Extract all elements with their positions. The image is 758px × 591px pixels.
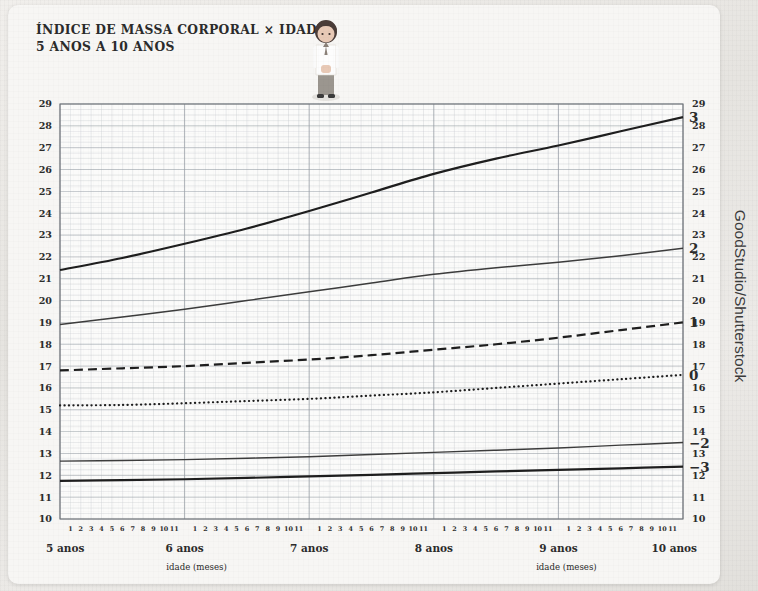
x-axis-month-label: 6 [618, 525, 623, 533]
x-axis-month-label: 11 [294, 525, 303, 533]
x-axis-month-label: 3 [89, 525, 94, 533]
y-axis-tick-label-right: 21 [692, 273, 705, 284]
x-axis-month-label: 8 [265, 525, 270, 533]
y-axis-tick-label-left: 27 [39, 142, 52, 153]
y-axis-tick-label-right: 18 [692, 339, 706, 350]
x-axis-month-label: 9 [276, 525, 281, 533]
x-axis-month-label: 1 [317, 525, 321, 533]
x-axis-month-label: 7 [504, 525, 508, 533]
x-axis-month-label: 9 [151, 525, 156, 533]
x-axis-month-label: 2 [577, 525, 581, 533]
x-axis-year-label: 9 anos [539, 542, 577, 554]
x-axis-month-label: 10 [284, 525, 293, 533]
x-axis-year-label: 5 anos [46, 542, 84, 554]
image-credit: GoodStudio/Shutterstock [721, 0, 758, 591]
y-axis-tick-label-left: 22 [39, 251, 52, 262]
chart-card: ÍNDICE DE MASSA CORPORAL × IDADE5 ANOS A… [8, 5, 720, 584]
y-axis-tick-label-right: 11 [692, 492, 705, 503]
x-axis-month-label: 3 [463, 525, 468, 533]
curve-label-0: 0 [689, 367, 698, 383]
x-axis-month-label: 5 [110, 525, 114, 533]
x-axis-month-label: 6 [369, 525, 374, 533]
curve-label--2: −2 [689, 435, 710, 451]
x-axis-month-label: 5 [483, 525, 487, 533]
x-axis-month-label: 5 [234, 525, 238, 533]
y-axis-tick-label-left: 28 [39, 120, 53, 131]
x-axis-month-label: 9 [400, 525, 405, 533]
x-axis-month-label: 4 [349, 525, 354, 533]
y-axis-tick-label-left: 16 [39, 382, 53, 393]
x-axis-title-left: idade (meses) [166, 562, 227, 572]
x-axis-month-label: 3 [214, 525, 219, 533]
y-axis-tick-label-left: 17 [39, 361, 52, 372]
y-axis-tick-label-right: 24 [692, 208, 706, 219]
y-axis-tick-label-right: 20 [692, 295, 706, 306]
y-axis-tick-label-left: 29 [39, 98, 53, 109]
x-axis-month-label: 4 [224, 525, 229, 533]
y-axis-tick-label-left: 11 [39, 492, 52, 503]
curve-label--3: −3 [689, 459, 710, 475]
x-axis-month-label: 2 [328, 525, 332, 533]
x-axis-month-label: 1 [442, 525, 446, 533]
x-axis-month-label: 2 [452, 525, 456, 533]
x-axis-month-label: 11 [170, 525, 179, 533]
x-axis-month-label: 8 [639, 525, 644, 533]
x-axis-month-label: 8 [515, 525, 520, 533]
x-axis-month-label: 6 [494, 525, 499, 533]
y-axis-tick-label-left: 10 [39, 513, 53, 524]
x-axis-month-label: 7 [130, 525, 134, 533]
y-axis-tick-label-left: 24 [39, 208, 53, 219]
x-axis-month-label: 8 [141, 525, 146, 533]
x-axis-month-label: 10 [409, 525, 418, 533]
x-axis-month-label: 1 [567, 525, 571, 533]
x-axis-year-label: 6 anos [165, 542, 203, 554]
growth-chart: 1010111112121313141415151616171718181919… [8, 5, 720, 584]
x-axis-month-label: 3 [338, 525, 343, 533]
y-axis-tick-label-right: 10 [692, 513, 706, 524]
x-axis-month-label: 1 [68, 525, 72, 533]
curve-label-1: 1 [689, 314, 698, 330]
y-axis-tick-label-left: 26 [39, 164, 53, 175]
y-axis-tick-label-left: 15 [39, 404, 52, 415]
x-axis-month-label: 11 [668, 525, 677, 533]
x-axis-month-label: 9 [650, 525, 655, 533]
credit-text: GoodStudio/Shutterstock [731, 209, 749, 381]
x-axis-year-label: 10 anos [651, 542, 697, 554]
x-axis-month-label: 5 [608, 525, 612, 533]
x-axis-month-label: 5 [359, 525, 363, 533]
y-axis-tick-label-right: 15 [692, 404, 705, 415]
y-axis-tick-label-left: 14 [39, 426, 53, 437]
x-axis-month-label: 10 [658, 525, 667, 533]
y-axis-tick-label-right: 27 [692, 142, 705, 153]
y-axis-tick-label-right: 25 [692, 186, 705, 197]
x-axis-month-label: 2 [203, 525, 207, 533]
x-axis-month-label: 11 [544, 525, 553, 533]
y-axis-tick-label-left: 19 [39, 317, 53, 328]
x-axis-month-label: 6 [120, 525, 125, 533]
y-axis-tick-label-right: 29 [692, 98, 706, 109]
x-axis-month-label: 7 [380, 525, 384, 533]
curve-label-2: 2 [689, 240, 698, 256]
x-axis-month-label: 4 [598, 525, 603, 533]
y-axis-tick-label-right: 16 [692, 382, 706, 393]
x-axis-year-label: 8 anos [415, 542, 453, 554]
x-axis-month-label: 8 [390, 525, 395, 533]
x-axis-month-label: 11 [419, 525, 428, 533]
x-axis-month-label: 9 [525, 525, 530, 533]
y-axis-tick-label-left: 25 [39, 186, 52, 197]
y-axis-tick-label-right: 26 [692, 164, 706, 175]
x-axis-month-label: 7 [255, 525, 259, 533]
x-axis-month-label: 6 [245, 525, 250, 533]
curve-label-3: 3 [689, 109, 698, 125]
y-axis-tick-label-left: 21 [39, 273, 52, 284]
y-axis-tick-label-left: 20 [39, 295, 53, 306]
y-axis-tick-label-left: 12 [39, 470, 52, 481]
x-axis-month-label: 10 [159, 525, 168, 533]
x-axis-month-label: 3 [587, 525, 592, 533]
x-axis-month-label: 2 [79, 525, 83, 533]
x-axis-month-label: 10 [533, 525, 542, 533]
x-axis-month-label: 7 [629, 525, 633, 533]
x-axis-year-label: 7 anos [290, 542, 328, 554]
y-axis-tick-label-left: 18 [39, 339, 53, 350]
x-axis-title-right: idade (meses) [536, 562, 597, 572]
